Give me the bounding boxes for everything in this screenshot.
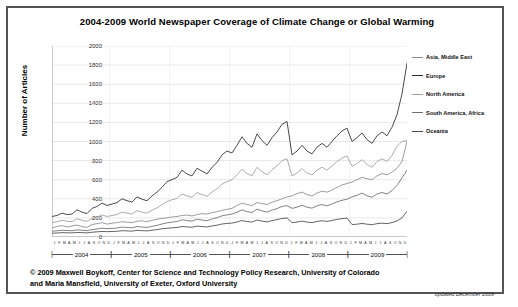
legend-swatch-icon: [412, 131, 423, 132]
legend-item-1[interactable]: Europe: [412, 67, 508, 86]
series-line-0: [52, 142, 407, 228]
month-label: D: [403, 239, 408, 248]
legend-swatch-icon: [412, 75, 423, 76]
credit-line-2: and Maria Mansfield, University of Exete…: [30, 278, 470, 289]
chart-frame: 2004-2009 World Newspaper Coverage of Cl…: [6, 6, 504, 294]
legend-label: North America: [426, 91, 464, 97]
legend-label: Oceania: [426, 128, 448, 134]
plot-area: [52, 46, 407, 237]
year-label-2004: |2004|: [52, 249, 111, 260]
chart-legend: Asia, Middle EastEuropeNorth AmericaSout…: [412, 48, 508, 141]
year-label-2008: |2008|: [289, 249, 348, 260]
legend-swatch-icon: [412, 94, 423, 95]
year-label-2006: |2006|: [170, 249, 229, 260]
series-line-3: [52, 170, 407, 231]
legend-item-4[interactable]: Oceania: [412, 122, 508, 141]
chart-title: 2004-2009 World Newspaper Coverage of Cl…: [8, 16, 506, 27]
x-axis-year-labels: |2004||2005||2006||2007||2008||2009|: [52, 249, 407, 260]
legend-item-0[interactable]: Asia, Middle East: [412, 48, 508, 67]
legend-label: Europe: [426, 73, 445, 79]
updated-note: updated December 2009: [435, 291, 494, 297]
credit-text: © 2009 Maxwell Boykoff, Center for Scien…: [30, 267, 470, 289]
credit-line-1: © 2009 Maxwell Boykoff, Center for Scien…: [30, 267, 470, 278]
legend-item-3[interactable]: South America, Africa: [412, 104, 508, 123]
x-axis-month-labels: JFMAMJJASONDJFMAMJJASONDJFMAMJJASONDJFMA…: [52, 239, 407, 248]
data-series-lines: [52, 46, 407, 237]
year-label-2007: |2007|: [230, 249, 289, 260]
legend-label: South America, Africa: [426, 110, 484, 116]
legend-swatch-icon: [412, 57, 423, 58]
legend-label: Asia, Middle East: [426, 54, 472, 60]
year-label-2009: |2009|: [348, 249, 407, 260]
legend-item-2[interactable]: North America: [412, 85, 508, 104]
series-line-1: [52, 63, 407, 216]
year-label-2005: |2005|: [111, 249, 170, 260]
y-axis-label: Number of Articles: [20, 41, 29, 161]
legend-swatch-icon: [412, 112, 423, 113]
